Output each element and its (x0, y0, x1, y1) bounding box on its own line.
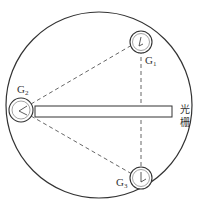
dashed-line-g2-g1 (31, 45, 132, 104)
gauge-g1 (130, 31, 152, 53)
dashed-line-g2-g3 (31, 116, 132, 174)
gauge-g1-outer-ring (130, 31, 152, 53)
label-g2: G2 (17, 83, 29, 97)
grating-label-line1: 光 (180, 103, 190, 115)
label-g1: G1 (145, 54, 157, 68)
gauge-g2 (9, 98, 33, 122)
diagram-canvas: G1 G2 G3 光 栅 (0, 0, 199, 219)
grating-label-line2: 栅 (180, 116, 190, 128)
gauge-g3 (130, 167, 152, 189)
outer-circle (6, 12, 192, 198)
label-g3: G3 (116, 176, 128, 190)
grating-bar (35, 106, 172, 117)
